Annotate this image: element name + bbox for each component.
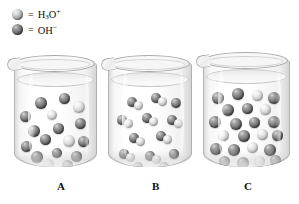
molecule-hydroxide (52, 148, 62, 158)
molecule-hydroxide (238, 130, 250, 142)
molecule-hydronium (218, 130, 229, 141)
molecule-hydronium (47, 110, 57, 120)
molecule-hydronium (73, 101, 85, 113)
beaker-body (203, 60, 290, 167)
molecule-hydroxide (169, 149, 179, 159)
legend-entry-hydronium: = H3O+ (12, 8, 61, 21)
formula-charge: + (56, 7, 60, 16)
sphere-icon (12, 24, 23, 35)
beaker-rim (203, 52, 288, 69)
molecule-hydroxide (210, 143, 222, 155)
beaker-spout (100, 57, 116, 72)
molecule-hydroxide (35, 97, 47, 109)
molecule-hydroxide (249, 117, 260, 128)
molecule-hydronium (134, 101, 143, 110)
molecule-hydroxide (133, 162, 143, 167)
beaker-label-b: B (152, 180, 160, 192)
molecule-hydronium (252, 90, 263, 101)
molecule-hydronium (136, 137, 145, 146)
molecule-hydroxide (40, 134, 51, 145)
sphere-icon (12, 9, 23, 20)
molecule-hydroxide (237, 157, 249, 167)
molecule-hydronium (247, 142, 258, 153)
molecule-hydroxide (268, 92, 280, 104)
molecule-hydronium (163, 135, 172, 144)
legend-equals-sign: = (28, 25, 34, 35)
beaker-body (14, 63, 97, 167)
liquid-surface (111, 72, 189, 87)
molecule-hydroxide (75, 118, 86, 129)
molecule-hydroxide (71, 151, 82, 162)
molecule-hydroxide (62, 160, 73, 167)
molecule-hydroxide (209, 116, 221, 128)
legend-formula-hydroxide: OH− (38, 24, 57, 36)
beaker-label-c: C (244, 180, 252, 192)
molecule-hydronium (174, 119, 183, 128)
legend-equals-sign: = (28, 10, 34, 20)
molecule-hydroxide (268, 116, 280, 128)
glass-highlight (179, 73, 184, 155)
molecule-hydroxide (53, 123, 64, 134)
molecule-hydroxide (28, 125, 40, 137)
molecule-hydronium (254, 156, 265, 167)
beaker-body (108, 63, 192, 167)
molecule-hydroxide (171, 98, 181, 108)
beaker-b (108, 55, 190, 167)
molecule-hydroxide (159, 162, 169, 167)
legend-entry-hydroxide: = OH− (12, 23, 61, 36)
molecule-hydronium (43, 159, 54, 167)
beaker-label-a: A (57, 180, 65, 192)
molecule-hydronium (126, 153, 135, 162)
beaker-rim-inner (208, 56, 283, 67)
molecule-hydroxide (31, 151, 43, 163)
formula-charge: − (53, 23, 57, 32)
beaker-rim (14, 55, 95, 72)
molecule-hydroxide (232, 88, 244, 100)
beaker-spout (6, 57, 22, 72)
molecule-hydroxide (230, 118, 242, 130)
liquid-surface (206, 69, 287, 84)
beaker-rim-inner (19, 59, 90, 70)
molecule-hydroxide (78, 136, 89, 147)
beaker-rim (108, 55, 190, 72)
molecule-hydroxide (20, 111, 31, 122)
molecule-hydroxide (59, 93, 70, 104)
molecule-hydroxide (272, 130, 283, 141)
molecule-hydroxide (212, 92, 224, 104)
formula-element-h: H (45, 24, 53, 35)
molecule-hydroxide (228, 144, 240, 156)
molecule-hydronium (257, 129, 268, 140)
beaker-rim-inner (113, 59, 185, 70)
molecule-hydroxide (242, 103, 253, 114)
molecule-hydronium (63, 135, 75, 147)
beaker-spout (195, 54, 211, 69)
legend-formula-hydronium: H3O+ (38, 8, 61, 21)
molecule-hydronium (158, 97, 167, 106)
beaker-a (14, 55, 95, 167)
glass-highlight (276, 70, 281, 155)
figure-canvas: = H3O+ = OH− ABC (0, 0, 299, 204)
molecule-hydroxide (21, 141, 32, 152)
molecule-hydronium (149, 117, 158, 126)
molecule-hydronium (260, 104, 271, 115)
liquid-surface (17, 72, 94, 87)
molecule-hydroxide (219, 156, 230, 167)
molecule-hydroxide (270, 155, 281, 166)
beaker-c (203, 52, 288, 167)
legend: = H3O+ = OH− (12, 8, 61, 38)
molecule-hydronium (124, 119, 133, 128)
molecule-hydroxide (222, 104, 234, 116)
